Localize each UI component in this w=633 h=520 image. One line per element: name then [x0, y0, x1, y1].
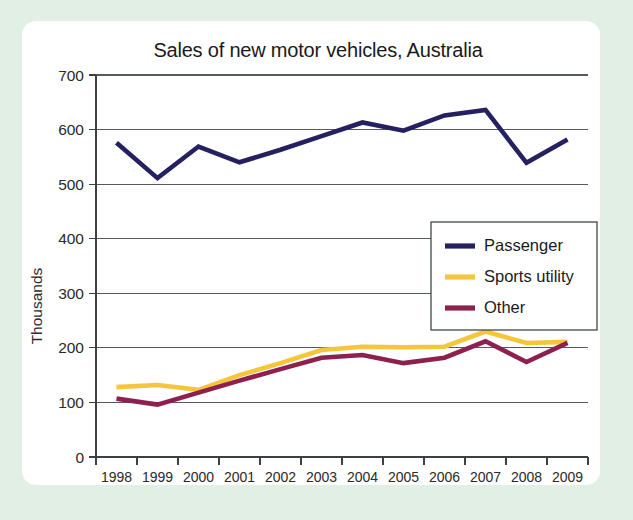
legend-label-other: Other: [484, 298, 526, 316]
chart-svg: Sales of new motor vehicles, Australia T…: [22, 21, 600, 485]
x-tick-label: 2008: [511, 469, 542, 485]
series-line-other: [117, 341, 568, 404]
y-tick-labels: 0100200300400500600700: [58, 67, 84, 466]
x-tick-label: 2001: [224, 469, 255, 485]
x-tick-label: 2009: [552, 469, 583, 485]
line-chart: Sales of new motor vehicles, Australia T…: [22, 21, 600, 485]
chart-legend: PassengerSports utilityOther: [431, 222, 597, 330]
legend-label-passenger: Passenger: [484, 236, 563, 254]
y-axis-title: Thousands: [28, 267, 45, 344]
chart-title: Sales of new motor vehicles, Australia: [153, 39, 483, 61]
y-tick-label: 300: [58, 285, 84, 302]
x-tick-label: 2004: [347, 469, 378, 485]
chart-page: Sales of new motor vehicles, Australia T…: [0, 0, 633, 520]
y-tick-label: 600: [58, 121, 84, 138]
y-tick-marks: [89, 75, 96, 457]
x-tick-label: 2002: [265, 469, 296, 485]
series-line-passenger: [117, 110, 568, 178]
y-tick-label: 500: [58, 176, 84, 193]
legend-label-sports-utility: Sports utility: [484, 267, 575, 285]
x-tick-label: 2003: [306, 469, 337, 485]
x-tick-label: 2006: [429, 469, 460, 485]
chart-card: Sales of new motor vehicles, Australia T…: [22, 21, 600, 485]
x-tick-label: 2005: [388, 469, 419, 485]
x-tick-label: 1998: [101, 469, 132, 485]
series-line-sports-utility: [117, 331, 568, 389]
x-tick-label: 1999: [142, 469, 173, 485]
y-tick-label: 400: [58, 230, 84, 247]
y-tick-label: 0: [75, 449, 84, 466]
x-tick-label: 2000: [183, 469, 214, 485]
x-tick-marks: [96, 457, 588, 465]
y-tick-label: 200: [58, 339, 84, 356]
x-tick-labels: 1998199920002001200220032004200520062007…: [101, 469, 583, 485]
x-tick-label: 2007: [470, 469, 501, 485]
y-tick-label: 700: [58, 67, 84, 84]
y-tick-label: 100: [58, 394, 84, 411]
